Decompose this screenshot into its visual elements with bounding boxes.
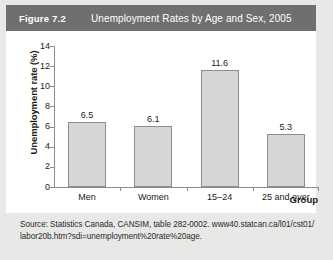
y-axis-tick-label: 14 bbox=[30, 42, 50, 51]
y-axis-tick-label: 10 bbox=[30, 82, 50, 91]
figure-card: Figure 7.2 Unemployment Rates by Age and… bbox=[6, 5, 316, 213]
bar-value-label: 6.1 bbox=[123, 114, 183, 124]
source-line-1: Source: Statistics Canada, CANSIM, table… bbox=[20, 219, 320, 231]
bar bbox=[134, 126, 172, 187]
x-axis-title: Group bbox=[54, 194, 319, 205]
y-axis-tick-mark bbox=[50, 46, 55, 47]
y-axis-tick-label: 12 bbox=[30, 62, 50, 71]
y-axis-tick-mark bbox=[50, 106, 55, 107]
y-axis-tick-mark bbox=[50, 127, 55, 128]
figure-title-label: Unemployment Rates by Age and Sex, 2005 bbox=[91, 13, 292, 24]
bar-value-label: 6.5 bbox=[57, 110, 117, 120]
y-axis-tick-label: 8 bbox=[30, 102, 50, 111]
bar-value-label: 11.6 bbox=[190, 58, 250, 68]
x-axis-tick-mark bbox=[318, 187, 319, 191]
bar bbox=[267, 134, 305, 187]
source-note: Source: Statistics Canada, CANSIM, table… bbox=[20, 219, 320, 242]
y-axis-tick-label: 6 bbox=[30, 122, 50, 131]
bar bbox=[201, 70, 239, 187]
figure-number-label: Figure 7.2 bbox=[19, 13, 91, 24]
x-axis-tick-mark bbox=[187, 187, 188, 191]
y-axis-tick-label: 4 bbox=[30, 142, 50, 151]
bar-value-label: 5.3 bbox=[256, 122, 316, 132]
x-axis-tick-mark bbox=[120, 187, 121, 191]
chart-plot-region: Unemployment rate (%) 02468101214 6.5Men… bbox=[6, 31, 316, 213]
source-line-2: labor20b.htm?sdi=unemployment%20rate%20a… bbox=[20, 231, 320, 243]
y-axis-tick-mark bbox=[50, 66, 55, 67]
y-axis-tick-label: 2 bbox=[30, 162, 50, 171]
y-axis-tick-labels: 02468101214 bbox=[30, 46, 50, 188]
y-axis-tick-label: 0 bbox=[30, 183, 50, 192]
x-axis-tick-mark bbox=[253, 187, 254, 191]
bar bbox=[68, 122, 106, 187]
chart-axes: 6.5Men6.1Women11.615–245.325 and over bbox=[54, 46, 319, 188]
y-axis-tick-mark bbox=[50, 167, 55, 168]
figure-header: Figure 7.2 Unemployment Rates by Age and… bbox=[6, 5, 316, 31]
y-axis-tick-mark bbox=[50, 86, 55, 87]
y-axis-tick-mark bbox=[50, 147, 55, 148]
y-axis-tick-mark bbox=[50, 187, 55, 188]
